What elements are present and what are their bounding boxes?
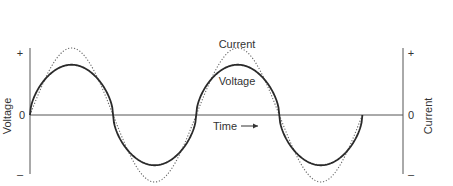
right-plus-label: +	[408, 47, 414, 59]
right-minus-label: –	[408, 168, 415, 180]
right-zero-label: 0	[408, 109, 414, 121]
left-axis-title: Voltage	[1, 98, 13, 135]
time-label: Time	[213, 120, 237, 132]
left-minus-label: –	[17, 168, 24, 180]
current-curve-label: Current	[219, 38, 256, 50]
waveform-chart: + 0 – + 0 – Voltage Current Current Volt…	[0, 0, 453, 186]
left-plus-label: +	[17, 47, 23, 59]
left-zero-label: 0	[19, 109, 25, 121]
time-arrow-icon	[241, 124, 258, 129]
right-axis-title: Current	[422, 98, 434, 135]
voltage-current-diagram: + 0 – + 0 – Voltage Current Current Volt…	[0, 0, 453, 186]
voltage-curve-label: Voltage	[219, 75, 256, 87]
